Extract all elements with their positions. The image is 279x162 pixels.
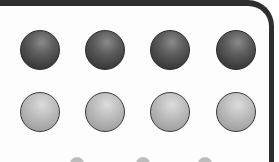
dark-sphere-icon — [20, 30, 60, 70]
dark-sphere-icon — [85, 30, 125, 70]
light-sphere-icon — [20, 92, 60, 132]
panel-frame — [0, 0, 274, 162]
light-sphere-icon — [85, 92, 125, 132]
dark-sphere-icon — [216, 30, 256, 70]
light-sphere-icon — [216, 92, 256, 132]
dark-sphere-icon — [150, 30, 190, 70]
light-sphere-icon — [150, 92, 190, 132]
